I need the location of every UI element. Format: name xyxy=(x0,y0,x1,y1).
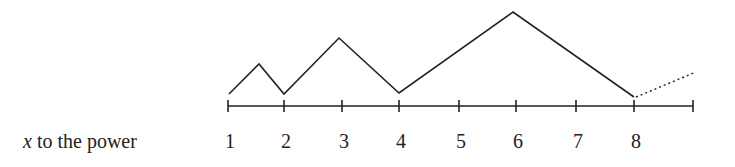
tick-label: 6 xyxy=(513,129,523,153)
tick-label: 2 xyxy=(281,129,291,153)
tick-label: 7 xyxy=(573,129,583,153)
tick-label: 4 xyxy=(396,129,406,153)
exponent-jump-diagram: x to the power 12345678 xyxy=(0,0,735,167)
tick-label: 3 xyxy=(339,129,349,153)
row-label: x to the power xyxy=(23,129,137,153)
jump-arcs xyxy=(229,12,634,97)
tick-label: 1 xyxy=(225,129,235,153)
tick-label: 5 xyxy=(456,129,466,153)
row-label-text: to the power xyxy=(32,130,137,152)
tick-label: 8 xyxy=(631,129,641,153)
variable-x: x xyxy=(23,130,32,152)
continuation-dotted-line xyxy=(636,72,696,97)
